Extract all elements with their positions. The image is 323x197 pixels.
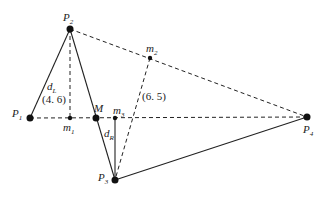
- point-p1: [27, 115, 34, 122]
- value-right: (6. 5): [142, 90, 166, 103]
- value-left: (4. 6): [42, 93, 66, 106]
- line-p2-p3: [70, 29, 115, 180]
- point-m: [93, 115, 100, 122]
- point-m1: [68, 116, 72, 120]
- point-p2: [67, 26, 74, 33]
- label-p4: P4: [302, 123, 314, 138]
- geometry-diagram: P2 P1 P3 P4 M m1 m2 m3 dL dR (4. 6) (6. …: [0, 0, 323, 197]
- line-p3-p4: [115, 117, 307, 180]
- point-p4: [304, 114, 311, 121]
- point-p3: [112, 177, 119, 184]
- label-p3: P3: [97, 171, 109, 186]
- label-p1: P1: [11, 107, 22, 122]
- label-m1: m1: [63, 121, 74, 136]
- point-m3: [113, 116, 117, 120]
- line-p2-p4: [70, 29, 307, 117]
- label-m: M: [93, 102, 104, 114]
- point-m2: [148, 56, 152, 60]
- label-m2: m2: [146, 42, 158, 57]
- label-p2: P2: [62, 11, 74, 26]
- label-dr: dR: [104, 127, 115, 142]
- line-m2-p3: [115, 58, 150, 180]
